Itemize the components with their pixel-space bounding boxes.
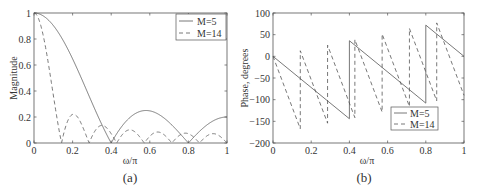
- x-tick-label: 0.4: [343, 145, 356, 156]
- phase-series-m5: [273, 25, 464, 119]
- phase-xlabel: ω/π: [360, 155, 374, 166]
- magnitude-chart: 00.20.40.60.8100.20.40.60.81 ω/π Magnitu…: [8, 8, 230, 186]
- x-tick-label: 0: [32, 145, 37, 156]
- x-tick-label: 0.6: [144, 145, 157, 156]
- y-tick-label: 0.6: [19, 60, 32, 71]
- phase-caption: (b): [356, 170, 371, 185]
- x-tick-label: 1: [225, 145, 230, 156]
- x-tick-label: 0.8: [420, 145, 433, 156]
- y-tick-label: −100: [249, 94, 270, 105]
- y-tick-label: 0.4: [19, 86, 32, 97]
- magnitude-xlabel: ω/π: [123, 155, 137, 166]
- x-tick-label: 0.8: [182, 145, 195, 156]
- phase-chart: 00.20.40.60.81−200−150−100−50050100 ω/π …: [239, 8, 467, 186]
- figure: 00.20.40.60.8100.20.40.60.81 ω/π Magnitu…: [0, 0, 478, 193]
- y-tick-label: 1: [26, 8, 31, 19]
- y-tick-label: −150: [249, 116, 270, 127]
- x-tick-label: 0.6: [381, 145, 394, 156]
- y-tick-label: 0: [26, 138, 31, 149]
- y-tick-label: 0: [265, 51, 270, 62]
- legend-label-m14: M=14: [410, 119, 435, 130]
- x-tick-label: 0.2: [305, 145, 318, 156]
- y-tick-label: 0.8: [19, 34, 32, 45]
- magnitude-legend: M=5 M=14: [176, 14, 226, 40]
- y-tick-label: −200: [249, 138, 270, 149]
- x-tick-label: 1: [462, 145, 467, 156]
- phase-legend: M=5 M=14: [391, 107, 438, 130]
- y-tick-label: 100: [255, 8, 270, 19]
- legend-label-m5: M=5: [410, 108, 430, 119]
- magnitude-caption: (a): [123, 170, 137, 185]
- x-tick-label: 0: [271, 145, 276, 156]
- phase-ylabel: Phase, degrees: [239, 48, 250, 107]
- y-tick-label: 50: [260, 29, 270, 40]
- magnitude-ylabel: Magnitude: [8, 56, 19, 100]
- y-tick-label: −50: [254, 73, 270, 84]
- phase-ticks: 00.20.40.60.81−200−150−100−50050100: [249, 8, 466, 157]
- legend-label-m14: M=14: [197, 28, 222, 39]
- legend-label-m5: M=5: [197, 16, 217, 27]
- x-tick-label: 0.4: [105, 145, 118, 156]
- x-tick-label: 0.2: [66, 145, 79, 156]
- y-tick-label: 0.2: [19, 112, 32, 123]
